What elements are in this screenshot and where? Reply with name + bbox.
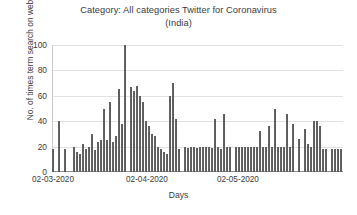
x-tick-label: 02-03-2020: [32, 175, 74, 184]
bar: [337, 149, 339, 172]
bar: [238, 147, 240, 172]
bar: [190, 147, 192, 172]
bar: [334, 149, 336, 172]
bar: [325, 149, 327, 172]
bar: [319, 126, 321, 172]
bar: [292, 124, 294, 172]
bar: [109, 102, 111, 172]
bar: [103, 109, 105, 173]
bar: [151, 134, 153, 172]
bar: [154, 136, 156, 172]
y-tick-label: 80: [0, 66, 47, 74]
bar: [79, 154, 81, 172]
x-tick-label: 02-04-2020: [126, 175, 168, 184]
bar-series: [52, 45, 343, 172]
bar: [112, 142, 114, 172]
bar: [307, 144, 309, 172]
bar: [211, 148, 213, 172]
chart-figure: Category: All categories Twitter for Cor…: [0, 0, 357, 215]
bar: [199, 147, 201, 172]
bar: [310, 147, 312, 172]
bar: [94, 150, 96, 172]
bar: [136, 86, 138, 172]
bar: [202, 147, 204, 172]
bar: [91, 134, 93, 172]
x-axis-label: Days: [0, 190, 357, 200]
y-tick-label: 100: [0, 41, 47, 49]
plot-area: [52, 45, 343, 172]
bar: [73, 147, 75, 172]
bar: [172, 83, 174, 172]
y-tick-label: 20: [0, 143, 47, 151]
bar: [118, 89, 120, 172]
bar: [175, 119, 177, 172]
bar: [253, 147, 255, 172]
bar: [163, 152, 165, 172]
bar: [88, 147, 90, 172]
bar: [226, 147, 228, 172]
bar: [214, 119, 216, 172]
bar: [133, 91, 135, 172]
bar: [160, 149, 162, 172]
bar: [208, 147, 210, 172]
bar: [244, 147, 246, 172]
bar: [316, 121, 318, 172]
bar: [139, 96, 141, 172]
bar: [145, 121, 147, 172]
bar: [229, 147, 231, 172]
bar: [313, 121, 315, 172]
bar: [217, 147, 219, 172]
bar: [184, 147, 186, 172]
chart-title-line-2: (India): [0, 17, 357, 30]
chart-title: Category: All categories Twitter for Cor…: [0, 4, 357, 30]
bar: [64, 149, 66, 172]
bar: [289, 147, 291, 172]
bar: [241, 147, 243, 172]
bar: [148, 126, 150, 172]
bar: [274, 109, 276, 173]
bar: [271, 147, 273, 172]
bar: [265, 147, 267, 172]
bar: [268, 126, 270, 172]
chart-title-line-1: Category: All categories Twitter for Cor…: [0, 4, 357, 17]
bar: [100, 140, 102, 172]
bar: [196, 148, 198, 172]
bar: [247, 147, 249, 172]
bar: [277, 147, 279, 172]
bar: [220, 149, 222, 172]
bar: [142, 102, 144, 172]
bar: [76, 152, 78, 172]
bar: [130, 87, 132, 172]
y-tick-label: 60: [0, 92, 47, 100]
x-tick-label: 02-05-2020: [217, 175, 259, 184]
x-axis-tick-labels: 02-03-202002-04-202002-05-2020: [52, 175, 343, 189]
y-axis-tick-labels: 020406080100: [0, 45, 47, 172]
bar: [178, 149, 180, 172]
bar: [121, 124, 123, 172]
y-tick-label: 40: [0, 117, 47, 125]
bar: [205, 147, 207, 172]
bar: [223, 114, 225, 172]
bar: [331, 149, 333, 172]
bar: [280, 147, 282, 172]
bar: [235, 147, 237, 172]
bar: [259, 131, 261, 172]
bar: [340, 149, 342, 172]
bar: [298, 139, 300, 172]
bar: [169, 96, 171, 172]
bar: [193, 147, 195, 172]
bar: [106, 140, 108, 172]
bar: [85, 149, 87, 172]
bar: [115, 136, 117, 172]
bar: [52, 149, 54, 172]
bar: [82, 144, 84, 172]
bar: [262, 147, 264, 172]
bar: [97, 142, 99, 172]
bar: [286, 114, 288, 172]
bar: [322, 149, 324, 172]
bar: [256, 147, 258, 172]
bar: [124, 45, 126, 172]
bar: [58, 121, 60, 172]
bar: [250, 147, 252, 172]
bar: [283, 147, 285, 172]
